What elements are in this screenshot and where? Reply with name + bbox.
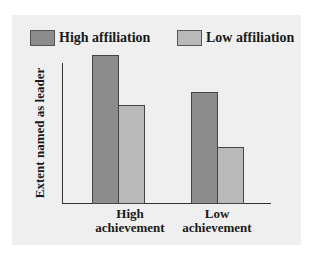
category-label-line: achievement [167, 221, 267, 235]
legend-swatch-high-affiliation [30, 30, 55, 46]
bar-low-affiliation-high-achievement [118, 105, 145, 204]
category-label-high-achievement: High achievement [80, 207, 180, 235]
category-label-line: achievement [80, 221, 180, 235]
bar-low-affiliation-low-achievement [217, 147, 244, 204]
legend-item-high-affiliation: High affiliation [30, 30, 150, 46]
y-axis-label: Extent named as leader [32, 68, 48, 198]
y-axis [62, 63, 63, 204]
legend-label: Low affiliation [206, 30, 294, 46]
category-label-line: High [80, 207, 180, 221]
bar-high-affiliation-low-achievement [191, 92, 218, 204]
legend-item-low-affiliation: Low affiliation [177, 30, 294, 46]
legend-label: High affiliation [59, 30, 150, 46]
legend-swatch-low-affiliation [177, 30, 202, 46]
category-label-low-achievement: Low achievement [167, 207, 267, 235]
bar-high-affiliation-high-achievement [92, 55, 119, 204]
category-label-line: Low [167, 207, 267, 221]
